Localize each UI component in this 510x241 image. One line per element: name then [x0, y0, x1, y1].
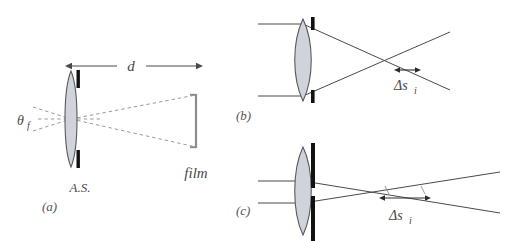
panel-b: Δs i (b)	[236, 17, 450, 123]
angle-label-theta-f: θ f	[17, 113, 31, 131]
film-label: film	[184, 165, 208, 181]
panel-c: Δs i (c)	[236, 143, 500, 241]
converging-rays-c	[303, 172, 500, 213]
delta-si-subscript-b: i	[414, 85, 417, 96]
figure-canvas: d	[0, 0, 510, 241]
ray-lower-to-focus-b	[303, 32, 450, 96]
optics-figure: d	[0, 0, 510, 241]
aperture-stop-bar-top-a	[77, 70, 80, 88]
aperture-stop-bar-top-b	[311, 17, 315, 30]
theta-symbol: θ	[17, 113, 24, 128]
film-plane-bracket	[190, 94, 196, 148]
dashed-rays-right	[71, 95, 196, 147]
panel-label-b: (b)	[236, 108, 251, 123]
panel-label-c: (c)	[236, 203, 250, 218]
aperture-stop-bar-bottom-a	[77, 150, 80, 168]
theta-subscript: f	[27, 120, 31, 131]
distance-label-d: d	[127, 58, 135, 74]
aperture-stop-bar-bottom-b	[311, 90, 315, 103]
panel-label-a: (a)	[42, 199, 57, 214]
delta-si-symbol-c: Δs	[388, 208, 403, 223]
delta-si-symbol-b: Δs	[393, 78, 408, 93]
delta-si-subscript-c: i	[409, 215, 412, 226]
panel-a: d	[17, 58, 208, 214]
aperture-stop-bar-top-c	[311, 143, 315, 188]
aperture-stop-bar-bottom-c	[311, 196, 315, 241]
lens-element-b	[295, 19, 312, 101]
ray-upper-to-focus-b	[303, 24, 450, 90]
lens-element-c	[295, 147, 312, 235]
aperture-stop-label: A.S.	[69, 180, 91, 195]
delta-si-label-b: Δs i	[393, 78, 417, 96]
distance-dimension-d: d	[72, 58, 196, 74]
delta-si-label-c: Δs i	[388, 208, 412, 226]
converging-rays-b	[303, 24, 450, 96]
lens-element-a	[65, 71, 77, 167]
dashed-ray-right-lower	[71, 119, 196, 147]
delta-si-tick-right-c	[421, 186, 425, 194]
dashed-ray-right-upper	[71, 95, 196, 119]
